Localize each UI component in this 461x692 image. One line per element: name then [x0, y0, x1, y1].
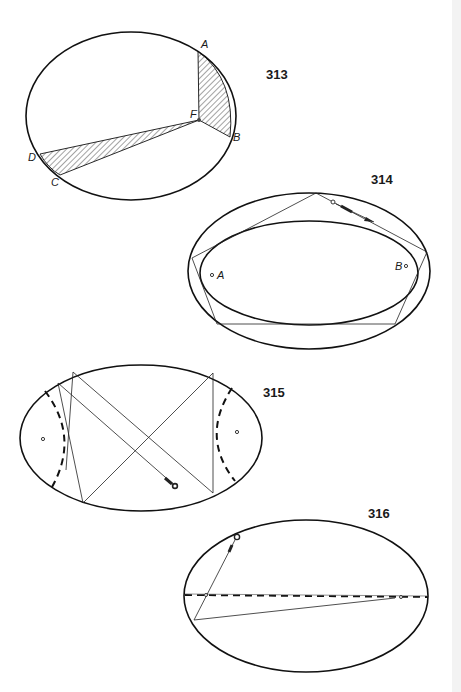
figure-313: A B F D C 313: [26, 32, 288, 200]
focus-point-f: [197, 118, 201, 122]
billiard-path-315: [58, 372, 213, 503]
cue-stick-icon: [165, 478, 172, 484]
label-a: A: [200, 38, 208, 50]
figure-316: 316: [184, 506, 428, 672]
hyperbola-branch-right: [217, 388, 235, 481]
ball-icon: [173, 484, 178, 489]
label-d: D: [28, 151, 36, 163]
focus-right-dot: [235, 430, 238, 433]
focus-a-dot: [210, 273, 213, 276]
label-a: A: [216, 269, 224, 281]
label-c: C: [51, 176, 59, 188]
cue-stick-icon: [341, 206, 352, 212]
figure-315: 315: [20, 365, 285, 511]
figure-number-316: 316: [368, 506, 390, 521]
figure-number-314: 314: [371, 172, 393, 187]
focus-left-dot: [205, 594, 208, 597]
figure-number-313: 313: [266, 67, 288, 82]
ball-icon: [331, 200, 335, 204]
diagram-canvas: A B F D C 313 A B 314 315: [0, 0, 461, 692]
cue-stick-icon: [229, 545, 232, 552]
ellipse-315: [20, 365, 262, 511]
page-edge: [452, 0, 461, 692]
label-b: B: [395, 260, 402, 272]
focus-left-dot: [41, 437, 44, 440]
hyperbola-branch-left: [45, 391, 64, 487]
hatched-sector-fdc: [40, 120, 199, 175]
ball-icon: [234, 534, 239, 539]
figure-number-315: 315: [263, 385, 285, 400]
focus-b-dot: [404, 264, 407, 267]
focus-right-dot: [400, 596, 403, 599]
billiard-path-316: [194, 538, 395, 620]
figure-314: A B 314: [188, 172, 430, 349]
label-b: B: [233, 131, 240, 143]
label-f: F: [190, 108, 198, 120]
